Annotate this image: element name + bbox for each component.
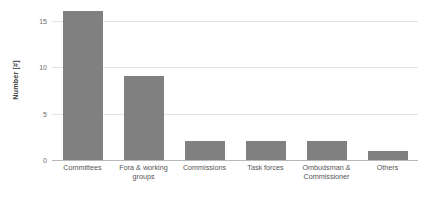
x-tick-label: Ombudsman & Commissioner [298, 163, 355, 181]
gridline: 5 [52, 114, 418, 115]
x-tick-label: Commissions [176, 163, 233, 172]
bar [185, 141, 225, 160]
gridline: 10 [52, 67, 418, 68]
y-axis-title: Number [#] [10, 42, 22, 118]
x-tick-label: Committees [54, 163, 111, 172]
bar [63, 11, 103, 160]
bar [307, 141, 347, 160]
y-tick-label: 5 [43, 110, 47, 117]
bar-chart: Number [#] 051015 CommitteesFora & worki… [0, 0, 433, 210]
y-tick-label: 15 [39, 17, 47, 24]
x-axis-labels: CommitteesFora & working groupsCommissio… [52, 163, 418, 207]
axis-baseline: 0 [52, 160, 418, 161]
bar [124, 76, 164, 160]
bar [246, 141, 286, 160]
bar [368, 151, 408, 160]
y-tick-label: 10 [39, 64, 47, 71]
y-tick-label: 0 [43, 157, 47, 164]
x-tick-label: Task forces [237, 163, 294, 172]
x-tick-label: Fora & working groups [115, 163, 172, 181]
plot-area: 051015 [52, 4, 418, 160]
gridline: 15 [52, 21, 418, 22]
x-tick-label: Others [359, 163, 416, 172]
